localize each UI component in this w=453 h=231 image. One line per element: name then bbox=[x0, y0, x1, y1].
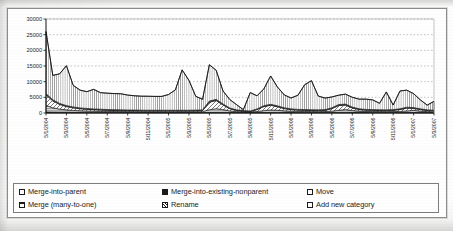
x-tick-label: 5/9/2005 bbox=[247, 117, 253, 137]
x-tick-label: 5/5/2005 bbox=[206, 117, 212, 137]
legend-label: Merge-into-parent bbox=[28, 185, 86, 198]
legend-label: Rename bbox=[171, 198, 199, 211]
x-tick-label: 5/7/2005 bbox=[227, 117, 233, 137]
x-tick-label: 5/7/2006 bbox=[349, 117, 355, 137]
legend-swatch-icon bbox=[162, 202, 168, 208]
scan-smudge-bottom bbox=[0, 219, 453, 231]
legend-swatch-icon bbox=[162, 189, 168, 195]
x-tick-label: 5/3/2007 bbox=[431, 117, 437, 137]
legend-item-merge-into-existing-nonparent[interactable]: Merge-into-existing-nonparent bbox=[162, 185, 268, 198]
legend-label: Merge-into-existing-nonparent bbox=[171, 185, 268, 198]
x-tick-label: 5/9/2006 bbox=[370, 117, 376, 137]
legend-swatch-icon bbox=[307, 202, 313, 208]
x-tick-label: 5/11/2005 bbox=[268, 117, 274, 140]
y-tick-label: 30000 bbox=[26, 16, 42, 22]
legend-item-merge-into-parent[interactable]: Merge-into-parent bbox=[19, 185, 86, 198]
legend-swatch-icon bbox=[19, 189, 25, 195]
chart-legend: Merge-into-parent Merge-into-existing-no… bbox=[13, 183, 439, 213]
y-tick-label: 25000 bbox=[26, 32, 42, 38]
x-tick-label: 5/3/2005 bbox=[186, 117, 192, 137]
legend-item-add-new-category[interactable]: Add new category bbox=[307, 198, 374, 211]
chart-figure: 0500010000150002000025000300005/1/20045/… bbox=[7, 8, 447, 218]
legend-row-2: Merge (many-to-one) Rename Add new categ… bbox=[19, 198, 433, 211]
x-tick-label: 5/5/2006 bbox=[329, 117, 335, 137]
x-tick-label: 5/11/2006 bbox=[390, 117, 396, 140]
y-tick-label: 0 bbox=[39, 110, 42, 116]
y-tick-label: 15000 bbox=[26, 63, 42, 69]
scanned-page: 0500010000150002000025000300005/1/20045/… bbox=[0, 0, 453, 231]
x-tick-label: 5/5/2004 bbox=[84, 117, 90, 137]
legend-label: Add new category bbox=[316, 198, 374, 211]
x-tick-label: 5/3/2006 bbox=[308, 117, 314, 137]
x-tick-label: 5/3/2004 bbox=[63, 117, 69, 137]
legend-item-merge-many-to-one[interactable]: Merge (many-to-one) bbox=[19, 198, 96, 211]
y-tick-label: 5000 bbox=[30, 94, 42, 100]
scan-smudge-top bbox=[0, 0, 453, 7]
legend-item-move[interactable]: Move bbox=[307, 185, 334, 198]
x-tick-label: 5/7/2004 bbox=[104, 117, 110, 137]
x-tick-label: 5/1/2007 bbox=[410, 117, 416, 137]
legend-row-1: Merge-into-parent Merge-into-existing-no… bbox=[19, 185, 433, 198]
x-tick-label: 5/1/2004 bbox=[43, 117, 49, 137]
y-tick-label: 10000 bbox=[26, 79, 42, 85]
chart-svg: 0500010000150002000025000300005/1/20045/… bbox=[8, 9, 446, 159]
legend-swatch-icon bbox=[19, 202, 25, 208]
x-tick-label: 5/1/2006 bbox=[288, 117, 294, 137]
x-tick-label: 5/9/2004 bbox=[125, 117, 131, 137]
legend-label: Merge (many-to-one) bbox=[28, 198, 96, 211]
plot-area: 0500010000150002000025000300005/1/20045/… bbox=[8, 9, 446, 159]
x-tick-label: 5/1/2005 bbox=[165, 117, 171, 137]
legend-item-rename[interactable]: Rename bbox=[162, 198, 199, 211]
legend-swatch-icon bbox=[307, 189, 313, 195]
x-tick-label: 5/11/2004 bbox=[145, 117, 151, 140]
legend-label: Move bbox=[316, 185, 334, 198]
y-tick-label: 20000 bbox=[26, 47, 42, 53]
